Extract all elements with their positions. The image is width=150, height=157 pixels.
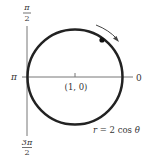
top-label-num: π: [23, 3, 30, 12]
equation-theta: θ: [135, 125, 140, 135]
top-label-den: 2: [24, 14, 29, 23]
bottom-label-num: 3π: [22, 138, 33, 147]
right-label: 0: [136, 73, 142, 83]
equation-eq: =: [100, 125, 107, 135]
equation-label: r = 2 cos θ: [93, 125, 140, 135]
arrowhead-icon: [113, 36, 119, 42]
equation-lhs: r: [93, 125, 98, 135]
left-label: π: [10, 72, 18, 82]
center-label: (1, 0): [65, 82, 88, 92]
bottom-label-den: 2: [24, 148, 29, 157]
equation-rhs: 2 cos: [110, 125, 132, 135]
point-marker: [99, 37, 104, 42]
polar-diagram: π 2 3π 2 π 0 (1, 0) r = 2 cos θ: [0, 0, 150, 157]
